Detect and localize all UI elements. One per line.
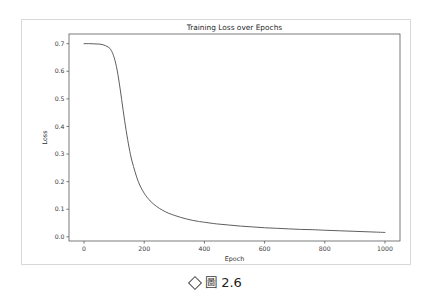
x-tick-label: 400 [199, 245, 211, 252]
training-loss-chart: Training Loss over Epochs0.00.10.20.30.4… [22, 20, 410, 264]
y-tick-label: 0.2 [55, 178, 65, 185]
x-tick-label: 800 [319, 245, 331, 252]
y-tick-label: 0.1 [55, 205, 65, 212]
chart-title: Training Loss over Epochs [186, 23, 283, 32]
plot-area-border [69, 34, 400, 241]
figure-caption: 圖2.6 [0, 274, 432, 292]
x-tick-label: 600 [259, 245, 271, 252]
x-axis-label: Epoch [225, 255, 245, 263]
y-tick-label: 0.6 [55, 67, 65, 74]
x-tick-label: 200 [138, 245, 150, 252]
figure-label-glyph: 圖 [205, 274, 218, 292]
y-tick-label: 0.0 [55, 233, 65, 240]
y-tick-label: 0.7 [55, 40, 65, 47]
y-axis-label: Loss [41, 130, 49, 145]
loss-curve [84, 44, 385, 233]
y-tick-label: 0.5 [55, 95, 65, 102]
y-tick-label: 0.3 [55, 150, 65, 157]
y-tick-label: 0.4 [55, 123, 65, 130]
figure-frame: Training Loss over Epochs0.00.10.20.30.4… [21, 19, 411, 265]
x-tick-label: 1000 [377, 245, 393, 252]
figure-number: 2.6 [221, 274, 242, 292]
x-tick-label: 0 [82, 245, 86, 252]
diamond-bullet-icon [188, 276, 202, 290]
